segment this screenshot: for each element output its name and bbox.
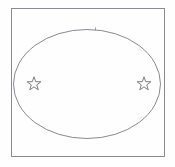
ellipse-outline	[14, 30, 161, 139]
rectangle-frame	[12, 9, 165, 157]
star-right	[137, 77, 151, 90]
diagram-svg	[0, 0, 175, 167]
star-left	[27, 77, 41, 90]
figure-canvas: Ellipse inscribed in rectangle with two …	[0, 0, 175, 167]
